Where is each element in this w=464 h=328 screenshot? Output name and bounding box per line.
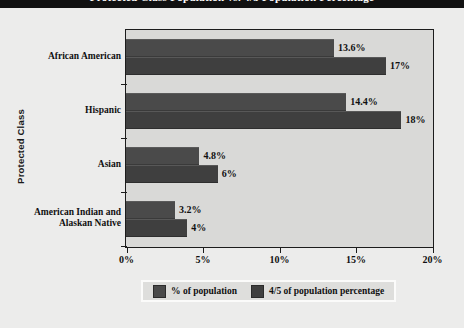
bar-1 — [126, 219, 187, 237]
legend-entry[interactable]: % of population — [153, 285, 237, 298]
x-axis-tick-label: 20% — [423, 254, 443, 265]
x-axis: 0%5%10%15%20% — [125, 248, 434, 270]
bar-value-label: 3.2% — [175, 201, 202, 219]
y-axis-tick — [121, 138, 127, 139]
bar-1 — [126, 111, 401, 129]
bar-1 — [126, 165, 218, 183]
legend-label: % of population — [171, 286, 237, 296]
plot-inner: 13.6%17%14.4%18%4.8%6%3.2%4% — [126, 30, 433, 247]
y-axis-title-label: Protected Class — [15, 109, 26, 184]
bar-value-label: 13.6% — [334, 39, 366, 57]
category-label: African American — [48, 51, 121, 62]
chart-screenshot: Protected Class Population vs. 4/5 Popul… — [0, 0, 464, 328]
legend-label: 4/5 of population percentage — [269, 286, 384, 296]
bar-value-label: 4% — [187, 219, 206, 237]
y-axis-title: Protected Class — [13, 96, 27, 196]
bar-0 — [126, 93, 346, 111]
chart-legend: % of population4/5 of population percent… — [141, 280, 396, 302]
bar-value-label: 18% — [401, 111, 425, 129]
bar-0 — [126, 39, 334, 57]
bar-0 — [126, 147, 199, 165]
x-axis-tick-label: 5% — [196, 254, 211, 265]
bar-value-label: 14.4% — [346, 93, 378, 111]
x-axis-tick-label: 0% — [119, 254, 134, 265]
bar-value-label: 6% — [218, 165, 237, 183]
x-axis-tick — [203, 248, 204, 253]
chart-title-bar: Protected Class Population vs. 4/5 Popul… — [0, 0, 464, 8]
bar-value-label: 17% — [386, 57, 410, 75]
x-axis-tick-label: 15% — [346, 254, 366, 265]
x-axis-tick — [356, 248, 357, 253]
chart-title-text: Protected Class Population vs. 4/5 Popul… — [90, 0, 374, 3]
x-axis-tick — [280, 248, 281, 253]
bar-1 — [126, 57, 386, 75]
y-axis-tick — [121, 84, 127, 85]
x-axis-tick-label: 10% — [270, 254, 290, 265]
y-axis-tick — [121, 192, 127, 193]
category-label: Asian — [98, 159, 121, 170]
legend-entry[interactable]: 4/5 of population percentage — [251, 285, 384, 298]
category-label: American Indian and Alaskan Native — [34, 207, 121, 229]
plot-area: 13.6%17%14.4%18%4.8%6%3.2%4% — [125, 29, 434, 248]
bar-0 — [126, 201, 175, 219]
x-axis-tick — [127, 248, 128, 253]
y-axis-tick — [121, 246, 127, 247]
category-label: Hispanic — [85, 105, 121, 116]
x-axis-tick — [433, 248, 434, 253]
bar-value-label: 4.8% — [199, 147, 226, 165]
legend-swatch-icon — [153, 285, 166, 298]
legend-swatch-icon — [251, 285, 264, 298]
